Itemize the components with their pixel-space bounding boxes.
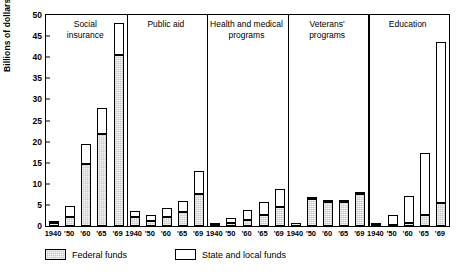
group-header-line: Social — [45, 19, 126, 30]
bar-segment-federal — [436, 203, 446, 226]
x-axis-tick-label: '50 — [306, 229, 316, 238]
bar — [65, 206, 75, 226]
group-separator — [288, 15, 289, 226]
bar-segment-federal — [307, 199, 317, 226]
bar — [259, 202, 269, 226]
bar — [436, 42, 446, 226]
x-axis-tick-label: 1940 — [206, 229, 223, 238]
bar-segment-federal — [420, 215, 430, 226]
y-axis-tick-label: 10 — [33, 179, 46, 189]
y-axis-tick-mark — [46, 120, 50, 121]
bar — [49, 221, 59, 226]
y-axis-tick-mark — [46, 57, 50, 58]
bar — [162, 208, 172, 226]
y-axis-tick-label: 45 — [33, 31, 46, 41]
bar — [146, 215, 156, 226]
y-axis-tick-label: 35 — [33, 73, 46, 83]
bar-segment-federal — [355, 194, 365, 226]
bar — [243, 210, 253, 226]
x-axis-tick-label: '50 — [64, 229, 74, 238]
plot-area: 05101520253035404550 — [45, 14, 450, 227]
group-separator — [207, 15, 208, 226]
bar-segment-state-local — [65, 206, 75, 217]
group-header-line: programs — [287, 30, 368, 41]
x-axis-tick-label: 1940 — [367, 229, 384, 238]
x-axis-tick-label: '50 — [387, 229, 397, 238]
bar — [178, 201, 188, 226]
group-header-line: programs — [206, 30, 287, 41]
bar-segment-federal — [291, 223, 301, 226]
x-axis-tick-label: '69 — [435, 229, 445, 238]
x-axis-tick-label: '69 — [193, 229, 203, 238]
bar-segment-federal — [97, 134, 107, 226]
bar — [388, 215, 398, 226]
bar-segment-state-local — [162, 208, 172, 217]
group-separator — [127, 15, 128, 226]
legend-item-federal: Federal funds — [45, 249, 127, 260]
bar — [355, 193, 365, 226]
bar-segment-state-local — [97, 108, 107, 134]
bar-segment-state-local — [243, 210, 253, 221]
bar-segment-state-local — [404, 196, 414, 223]
x-axis-tick-label: '65 — [177, 229, 187, 238]
bar-segment-federal — [339, 202, 349, 226]
legend-label-state-local: State and local funds — [202, 250, 286, 260]
bar — [275, 189, 285, 226]
bar-segment-federal — [81, 164, 91, 226]
x-axis-tick-label: 1940 — [45, 229, 62, 238]
bar-segment-federal — [49, 223, 59, 226]
bar — [339, 201, 349, 226]
x-axis-tick-label: '69 — [354, 229, 364, 238]
bar-segment-federal — [259, 215, 269, 226]
bar — [371, 223, 381, 226]
x-axis-tick-label: '69 — [112, 229, 122, 238]
y-axis-tick-label: 25 — [33, 116, 46, 126]
bar-segment-federal — [146, 221, 156, 226]
bar-segment-federal — [226, 223, 236, 226]
group-header-education: Education — [367, 19, 448, 30]
bar — [210, 223, 220, 226]
x-axis-tick-label: 1940 — [287, 229, 304, 238]
bar — [114, 23, 124, 226]
y-axis-tick-label: 50 — [33, 10, 46, 20]
group-header-veterans-programs: Veterans'programs — [287, 19, 368, 40]
legend-label-federal: Federal funds — [72, 250, 127, 260]
y-axis-tick-mark — [46, 162, 50, 163]
group-header-line: insurance — [45, 30, 126, 41]
group-header-line: Public aid — [126, 19, 207, 30]
x-axis-tick-label: 1940 — [125, 229, 142, 238]
legend-swatch-state-local-icon — [175, 249, 196, 260]
y-axis-tick-mark — [46, 183, 50, 184]
bar — [226, 218, 236, 226]
x-axis-tick-label: '60 — [80, 229, 90, 238]
y-axis-tick-label: 20 — [33, 137, 46, 147]
bar-segment-federal — [210, 224, 220, 226]
group-header-social-insurance: Socialinsurance — [45, 19, 126, 40]
bar-segment-state-local — [81, 144, 91, 165]
group-header-line: Health and medical — [206, 19, 287, 30]
x-axis-tick-label: '65 — [96, 229, 106, 238]
bar — [307, 198, 317, 226]
group-header-line: Education — [367, 19, 448, 30]
legend-item-state-local: State and local funds — [175, 249, 286, 260]
bar — [130, 211, 140, 226]
bar-segment-federal — [404, 223, 414, 226]
x-axis-tick-label: '60 — [403, 229, 413, 238]
bar-segment-federal — [162, 217, 172, 226]
bar — [291, 223, 301, 226]
bar-segment-federal — [178, 212, 188, 226]
group-header-public-aid: Public aid — [126, 19, 207, 30]
x-axis-tick-label: '65 — [419, 229, 429, 238]
bar — [194, 171, 204, 226]
bar — [323, 201, 333, 226]
bar-segment-federal — [323, 202, 333, 226]
y-axis-tick-mark — [46, 99, 50, 100]
bar-segment-state-local — [194, 171, 204, 194]
group-separator — [368, 15, 369, 226]
chart-figure: Billions of dollars 05101520253035404550… — [0, 0, 461, 275]
bar — [420, 153, 430, 226]
bar-segment-federal — [388, 224, 398, 226]
bar-segment-federal — [243, 220, 253, 226]
y-axis-title: Billions of dollars — [2, 0, 12, 72]
x-axis-tick-label: '60 — [241, 229, 251, 238]
